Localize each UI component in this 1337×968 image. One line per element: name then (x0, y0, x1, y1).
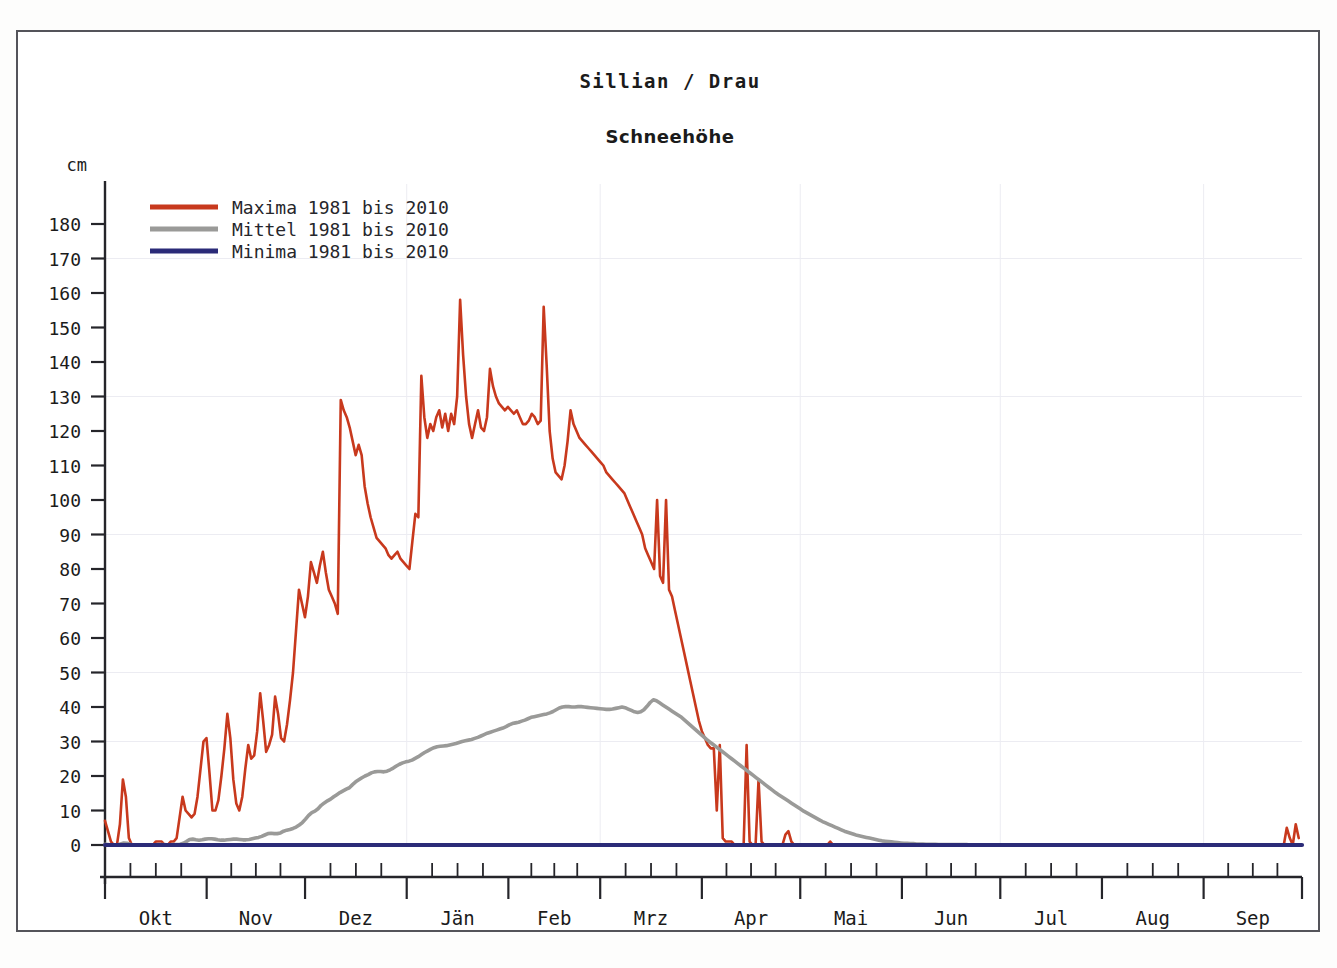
y-axis-tick-label: 80 (59, 559, 81, 580)
series-line-mittel (105, 700, 1299, 845)
y-axis-tick-label: 60 (59, 628, 81, 649)
chart-page: Sillian / Drau Schneehöhe cm180170160150… (0, 0, 1337, 968)
legend-label-minima: Minima 1981 bis 2010 (232, 241, 449, 262)
x-axis-month-label: Jun (934, 907, 968, 929)
x-axis-month-label: Jän (440, 907, 474, 929)
y-axis-tick-label: 140 (48, 352, 81, 373)
y-axis-tick-label: 30 (59, 732, 81, 753)
chart-frame: Sillian / Drau Schneehöhe cm180170160150… (16, 30, 1320, 932)
x-axis-month-label: Jul (1034, 907, 1068, 929)
y-axis-tick-label: 180 (48, 214, 81, 235)
x-axis-month-label: Mai (834, 907, 868, 929)
snow-depth-line-chart: cm18017016015014013012011010090807060504… (18, 32, 1322, 934)
y-axis-tick-label: 150 (48, 318, 81, 339)
x-axis-month-label: Mrz (634, 907, 668, 929)
series-line-maxima (105, 300, 1299, 845)
faint-gridlines (105, 184, 1302, 845)
y-axis-tick-label: 100 (48, 490, 81, 511)
y-axis-tick-label: 170 (48, 249, 81, 270)
y-axis-tick-label: 160 (48, 283, 81, 304)
legend-label-maxima: Maxima 1981 bis 2010 (232, 197, 449, 218)
y-axis-unit-label: cm (67, 155, 87, 175)
x-axis-month-label: Feb (537, 907, 571, 929)
y-axis-tick-label: 120 (48, 421, 81, 442)
y-axis-tick-label: 70 (59, 594, 81, 615)
y-axis-tick-label: 110 (48, 456, 81, 477)
x-axis-month-label: Apr (734, 907, 768, 929)
y-axis-tick-label: 0 (70, 835, 81, 856)
y-axis-tick-label: 40 (59, 697, 81, 718)
y-axis-tick-label: 130 (48, 387, 81, 408)
data-series-group (105, 300, 1302, 845)
y-axis: cm18017016015014013012011010090807060504… (48, 155, 105, 884)
x-axis-month-label: Sep (1236, 907, 1270, 929)
y-axis-tick-label: 10 (59, 801, 81, 822)
x-axis-month-label: Dez (339, 907, 373, 929)
legend-label-mittel: Mittel 1981 bis 2010 (232, 219, 449, 240)
x-axis: OktNovDezJänFebMrzAprMaiJunJulAugSep (100, 863, 1302, 929)
x-axis-month-label: Nov (239, 907, 273, 929)
y-axis-tick-label: 50 (59, 663, 81, 684)
chart-legend: Maxima 1981 bis 2010Mittel 1981 bis 2010… (150, 197, 449, 262)
y-axis-tick-label: 90 (59, 525, 81, 546)
x-axis-month-label: Okt (139, 907, 173, 929)
x-axis-month-label: Aug (1136, 907, 1170, 929)
y-axis-tick-label: 20 (59, 766, 81, 787)
